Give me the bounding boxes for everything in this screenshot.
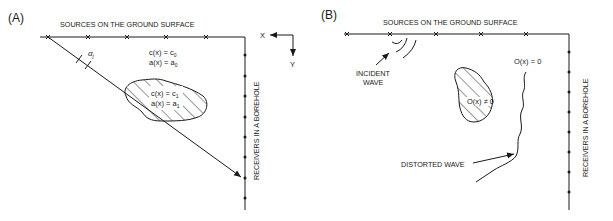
panel-b: (B) SOURCES ON THE GROUND SURFACE RECEIV… (321, 8, 590, 210)
panel-a: (A) SOURCES ON THE GROUND SURFACE RECEIV… (8, 11, 295, 210)
incident-wave-arrow (376, 53, 389, 65)
panel-a-sources-label: SOURCES ON THE GROUND SURFACE (60, 20, 195, 29)
tomography-diagram: (A) SOURCES ON THE GROUND SURFACE RECEIV… (0, 0, 613, 221)
axis-x-label: X (260, 31, 265, 40)
angle-symbol: αj (88, 49, 95, 59)
receiver-dot-icon (568, 151, 571, 154)
panel-b-receivers-label: RECEIVERS IN A BOREHOLE (581, 78, 590, 177)
background-eq: O(x) = 0 (514, 57, 541, 66)
coordinate-axes: X Y (260, 31, 295, 69)
incident-wave-icon (392, 38, 416, 58)
anomaly-eq-a: a(x) = a1 (151, 99, 180, 109)
receiver-dot-icon (568, 51, 571, 54)
receiver-dot-icon (568, 171, 571, 174)
anomaly-eq: O(x) ≠ 0 (467, 97, 494, 106)
receiver-dot-icon (244, 95, 247, 98)
receiver-dot-icon (244, 54, 247, 57)
receiver-dot-icon (244, 136, 247, 139)
receiver-dot-icon (568, 91, 571, 94)
receiver-dot-icon (244, 75, 247, 78)
segment-tick (76, 55, 82, 63)
panel-b-sources-label: SOURCES ON THE GROUND SURFACE (383, 18, 518, 27)
receiver-dot-icon (568, 131, 571, 134)
panel-b-label: (B) (321, 8, 337, 22)
receiver-dot-icon (244, 156, 247, 159)
receiver-dot-icon (244, 177, 247, 180)
ray-path (48, 37, 241, 177)
incident-wave-label-line2: WAVE (363, 78, 384, 87)
receiver-dot-icon (244, 116, 247, 119)
distorted-wave-label: DISTORTED WAVE (401, 160, 465, 169)
incident-wave-label-line1: INCIDENT (356, 69, 391, 78)
distorted-wave-arrow (473, 154, 514, 163)
background-eq-c: c(x) = c0 (149, 48, 177, 58)
receiver-dot-icon (568, 191, 571, 194)
anomaly-eq-c: c(x) = c1 (151, 89, 179, 99)
receiver-dot-icon (568, 111, 571, 114)
receiver-dot-icon (244, 197, 247, 200)
receiver-dot-icon (568, 71, 571, 74)
panel-a-label: (A) (8, 11, 24, 25)
anomaly-region (455, 68, 493, 122)
background-eq-a: a(x) = a0 (149, 58, 178, 68)
panel-a-receivers-label: RECEIVERS IN A BOREHOLE (252, 81, 261, 180)
axis-y-label: Y (290, 60, 295, 69)
